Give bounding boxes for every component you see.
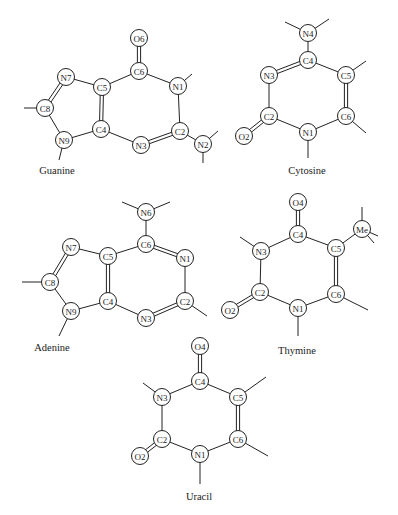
atom-n3: N3 [154, 389, 171, 406]
atom-label: C4 [293, 230, 304, 240]
atom-n3: N3 [253, 243, 270, 260]
atom-c4: C4 [300, 52, 317, 69]
atom-c6: C6 [328, 286, 345, 303]
bonds [229, 202, 378, 336]
atom-n9: N9 [63, 303, 80, 320]
atom-n6: N6 [138, 204, 155, 221]
atom-c8: C8 [42, 274, 59, 291]
atom-label: C6 [341, 112, 352, 122]
molecule-name-label: Thymine [278, 345, 316, 356]
atom-label: C2 [264, 112, 275, 122]
atom-label: O2 [135, 452, 146, 462]
atom-c5: C5 [94, 79, 111, 96]
atom-label: C5 [97, 83, 108, 93]
molecule-name-label: Uracil [186, 491, 212, 502]
atom-label: C4 [103, 297, 114, 307]
atom-label: N3 [136, 141, 147, 151]
atom-label: C6 [134, 67, 145, 77]
diagram-svg: O6C6N1C2N2N3C4C5N7C8N9GuanineN4C4N3C5C2C… [0, 0, 398, 515]
atom-n1: N1 [170, 78, 187, 95]
atom-label: N3 [157, 393, 168, 403]
atom-label: C6 [141, 240, 152, 250]
atom-label: C2 [157, 435, 168, 445]
atom-label: C4 [96, 125, 107, 135]
atom-o2: O2 [132, 448, 149, 465]
atom-c6: C6 [338, 108, 355, 125]
atom-c2: C2 [177, 293, 194, 310]
atom-label: N3 [256, 247, 267, 257]
atom-label: N1 [293, 304, 304, 314]
atom-n7: N7 [63, 239, 80, 256]
molecule-adenine: N6C6N1C2N3C4C5N7C8N9Adenine [22, 202, 207, 353]
atom-n1: N1 [300, 124, 317, 141]
atom-label: N3 [264, 71, 275, 81]
atom-label: N9 [66, 307, 77, 317]
atom-label: C5 [341, 71, 352, 81]
atom-c2: C2 [261, 108, 278, 125]
molecule-name-label: Cytosine [288, 165, 326, 176]
bonds [24, 38, 218, 163]
atom-c5: C5 [328, 240, 345, 257]
atom-c6: C6 [138, 236, 155, 253]
atom-c5: C5 [100, 248, 117, 265]
bonds [22, 202, 207, 336]
atom-label: C8 [40, 104, 51, 114]
atom-label: N4 [303, 29, 314, 39]
atom-label: C5 [331, 244, 342, 254]
atom-n1: N1 [290, 300, 307, 317]
atom-n3: N3 [138, 310, 155, 327]
atom-c4: C4 [100, 293, 117, 310]
atom-o4: O4 [192, 338, 209, 355]
atom-label: N2 [198, 140, 209, 150]
bonds [139, 346, 268, 484]
atom-o2: O2 [222, 302, 239, 319]
atom-label: O4 [293, 198, 304, 208]
atom-o6: O6 [131, 30, 148, 47]
atom-label: N7 [61, 73, 72, 83]
atom-n4: N4 [300, 25, 317, 42]
atom-label: Me [356, 225, 368, 235]
atom-label: C6 [331, 290, 342, 300]
atom-n2: N2 [195, 136, 212, 153]
atom-c2: C2 [154, 431, 171, 448]
atom-o2: O2 [236, 128, 253, 145]
atom-label: O6 [134, 34, 145, 44]
atom-label: C2 [255, 288, 266, 298]
atom-n1: N1 [177, 250, 194, 267]
atom-n7: N7 [58, 69, 75, 86]
atom-label: N1 [173, 82, 184, 92]
atom-c4: C4 [192, 373, 209, 390]
molecule-name-label: Adenine [34, 342, 70, 353]
nucleobase-diagram: O6C6N1C2N2N3C4C5N7C8N9GuanineN4C4N3C5C2C… [0, 0, 398, 515]
atom-c2: C2 [172, 123, 189, 140]
molecule-name-label: Guanine [39, 165, 75, 176]
atom-label: N7 [66, 243, 77, 253]
atom-c4: C4 [93, 121, 110, 138]
atom-label: N9 [59, 136, 70, 146]
atom-c4: C4 [290, 226, 307, 243]
atom-n9: N9 [56, 132, 73, 149]
molecule-guanine: O6C6N1C2N2N3C4C5N7C8N9Guanine [24, 30, 218, 177]
atom-label: C5 [233, 393, 244, 403]
atom-label: N1 [303, 128, 314, 138]
atom-c6: C6 [131, 63, 148, 80]
atom-n3: N3 [133, 137, 150, 154]
molecule-thymine: O4C4N3C5MeC2C6N1O2Thymine [222, 194, 379, 357]
atom-c2: C2 [252, 284, 269, 301]
atom-label: O2 [239, 132, 250, 142]
atom-label: N1 [180, 254, 191, 264]
atom-c6: C6 [230, 431, 247, 448]
molecule-uracil: O4C4N3C5C2C6N1O2Uracil [132, 338, 269, 503]
atom-label: C4 [303, 56, 314, 66]
atom-me: Me [354, 221, 371, 238]
atom-label: C5 [103, 252, 114, 262]
atom-c8: C8 [37, 100, 54, 117]
atom-o4: O4 [290, 194, 307, 211]
atom-c5: C5 [338, 67, 355, 84]
atom-n3: N3 [261, 67, 278, 84]
atom-label: N1 [195, 450, 206, 460]
atom-label: O2 [225, 306, 236, 316]
atom-label: C4 [195, 377, 206, 387]
atom-label: C8 [45, 278, 56, 288]
atom-label: C6 [233, 435, 244, 445]
